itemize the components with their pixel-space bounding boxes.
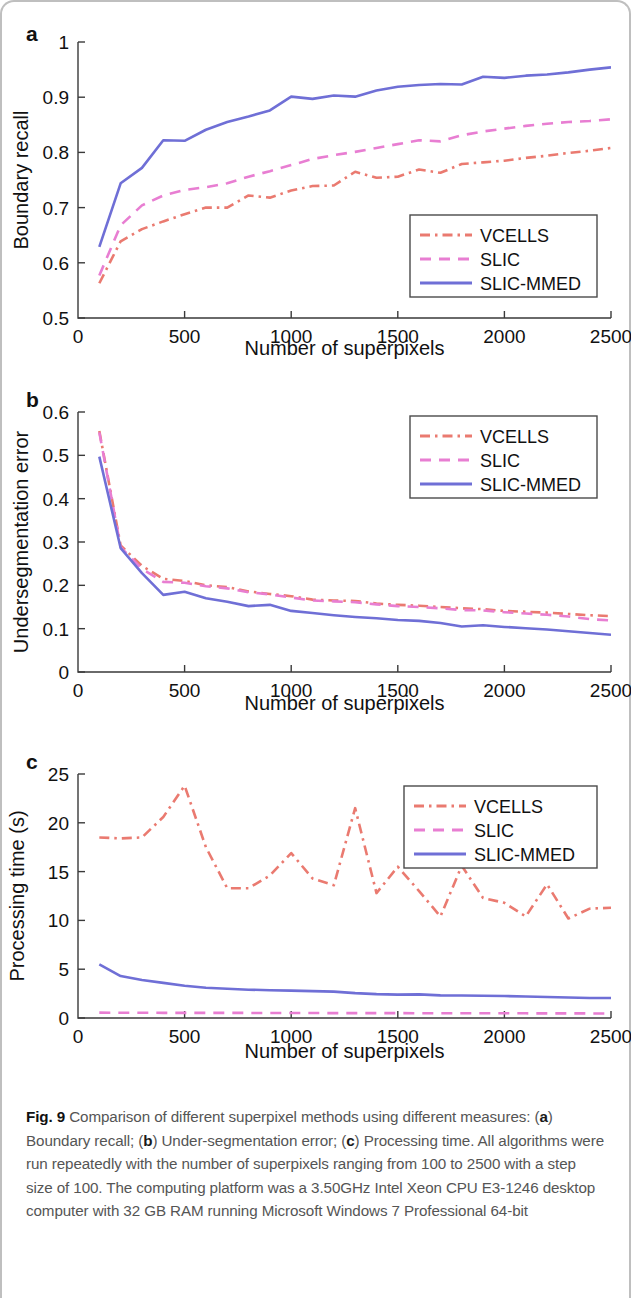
- x-axis-tick-label: 2000: [483, 326, 525, 347]
- x-axis-tick-label: 500: [169, 1026, 201, 1047]
- y-axis-tick-label: 15: [48, 862, 69, 883]
- y-axis-tick-label: 20: [48, 813, 69, 834]
- panel-c-plot: 051015202505001000150020002500Number of …: [0, 728, 631, 1090]
- y-axis-tick-label: 0.1: [43, 619, 69, 640]
- legend-label-vcells: VCELLS: [474, 797, 543, 817]
- legend-label-vcells: VCELLS: [480, 427, 549, 447]
- series-line-slic-mmed: [99, 964, 611, 998]
- legend-label-slic-mmed: SLIC-MMED: [474, 845, 575, 865]
- figure-caption: Fig. 9 Comparison of different superpixe…: [26, 1105, 604, 1223]
- y-axis-tick-label: 0.5: [43, 308, 69, 329]
- x-axis-title: Number of superpixels: [244, 1040, 444, 1062]
- y-axis-title: Processing time (s): [6, 810, 28, 981]
- legend-label-vcells: VCELLS: [480, 226, 549, 246]
- series-line-slic: [99, 1013, 611, 1014]
- x-axis-tick-label: 0: [73, 326, 84, 347]
- y-axis-tick-label: 0.2: [43, 575, 69, 596]
- x-axis-tick-label: 500: [169, 680, 201, 701]
- y-axis-tick-label: 1: [58, 32, 69, 53]
- legend-label-slic-mmed: SLIC-MMED: [480, 274, 581, 294]
- y-axis-tick-label: 0.7: [43, 198, 69, 219]
- x-axis-title: Number of superpixels: [244, 337, 444, 359]
- y-axis-title: Boundary recall: [10, 111, 32, 250]
- y-axis-tick-label: 0: [58, 662, 69, 683]
- caption-ref-c: c: [346, 1132, 354, 1149]
- chart-panel-a: a 0.50.60.70.80.9105001000150020002500Nu…: [0, 0, 631, 370]
- y-axis-tick-label: 0.5: [43, 445, 69, 466]
- caption-segment-3: ) Under-segmentation error; (: [152, 1132, 346, 1149]
- y-axis-tick-label: 0: [58, 1008, 69, 1029]
- y-axis-tick-label: 0.4: [43, 489, 70, 510]
- y-axis-tick-label: 0.3: [43, 532, 69, 553]
- y-axis-tick-label: 25: [48, 764, 69, 785]
- x-axis-tick-label: 2500: [590, 680, 631, 701]
- y-axis-tick-label: 0.6: [43, 253, 69, 274]
- x-axis-tick-label: 2000: [483, 1026, 525, 1047]
- y-axis-tick-label: 5: [58, 959, 69, 980]
- y-axis-tick-label: 10: [48, 910, 69, 931]
- legend-label-slic: SLIC: [474, 821, 514, 841]
- chart-panel-b: b 00.10.20.30.40.50.60500100015002000250…: [0, 370, 631, 728]
- y-axis-tick-label: 0.8: [43, 142, 69, 163]
- panel-a-plot: 0.50.60.70.80.9105001000150020002500Numb…: [0, 0, 631, 370]
- x-axis-tick-label: 2000: [483, 680, 525, 701]
- panel-b-plot: 00.10.20.30.40.50.605001000150020002500N…: [0, 370, 631, 728]
- x-axis-tick-label: 2500: [590, 326, 631, 347]
- x-axis-title: Number of superpixels: [244, 692, 444, 714]
- figure-number: Fig. 9: [26, 1108, 65, 1125]
- legend-label-slic-mmed: SLIC-MMED: [480, 475, 581, 495]
- y-axis-tick-label: 0.9: [43, 87, 69, 108]
- y-axis-tick-label: 0.6: [43, 402, 69, 423]
- chart-panel-c: c 051015202505001000150020002500Number o…: [0, 728, 631, 1090]
- legend-label-slic: SLIC: [480, 250, 520, 270]
- x-axis-tick-label: 0: [73, 1026, 84, 1047]
- x-axis-tick-label: 2500: [590, 1026, 631, 1047]
- caption-segment-1: Comparison of different superpixel metho…: [65, 1108, 539, 1125]
- y-axis-title: Undersegmentation error: [10, 430, 32, 653]
- legend-label-slic: SLIC: [480, 451, 520, 471]
- caption-ref-a: a: [539, 1108, 547, 1125]
- x-axis-tick-label: 500: [169, 326, 201, 347]
- x-axis-tick-label: 0: [73, 680, 84, 701]
